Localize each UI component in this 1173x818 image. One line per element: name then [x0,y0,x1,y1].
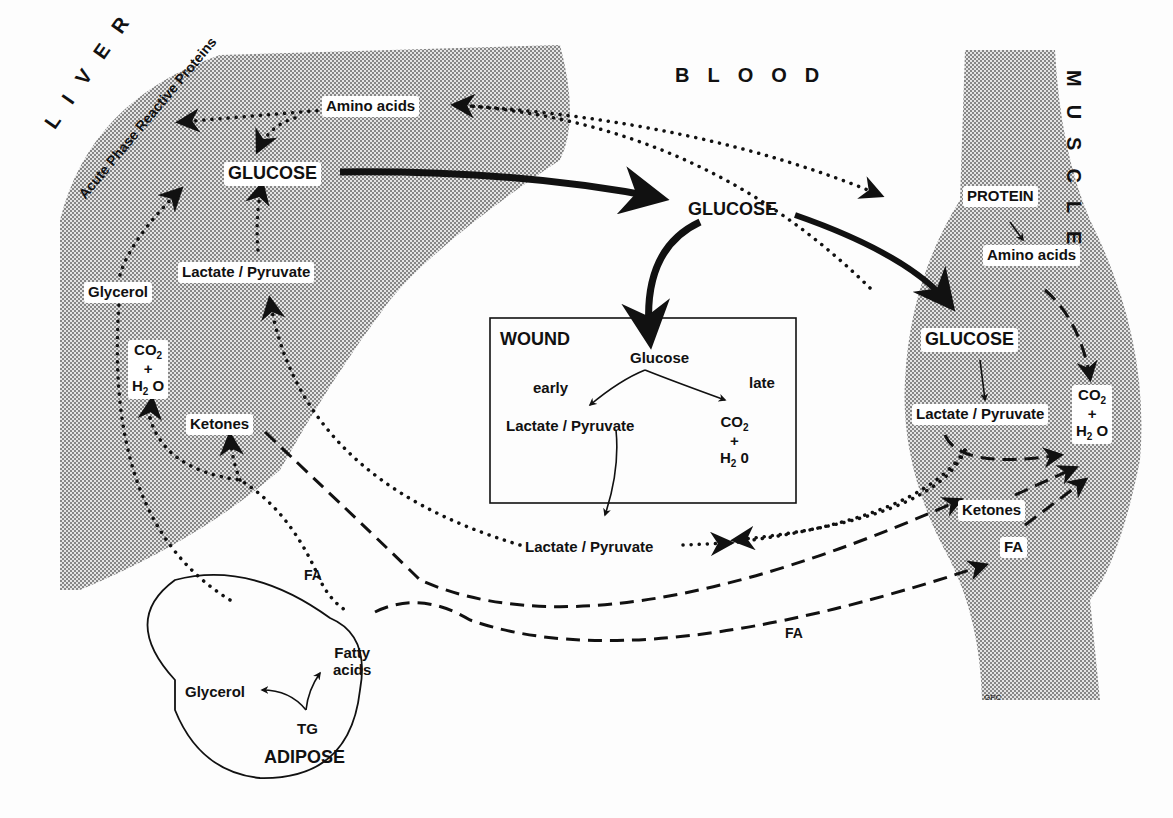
liver-glycerol-label: Glycerol [84,282,152,303]
liver-lactate-pyruvate-label: Lactate / Pyruvate [178,262,314,283]
wound-glucose-label: Glucose [630,350,689,367]
muscle-amino-acids-label: Amino acids [983,245,1080,266]
blood-title: BLOOD [675,64,837,87]
blood-glucose-label: GLUCOSE [688,200,777,220]
wound-early-label: early [533,380,568,397]
artist-signature: GPC [984,694,1001,703]
muscle-protein-label: PROTEIN [963,186,1038,207]
blood-lactate-pyruvate-label: Lactate / Pyruvate [525,539,653,556]
adipose-glycerol-label: Glycerol [185,684,245,701]
wound-co2-h2o-label: CO2 + H2 0 [720,414,749,469]
liver-amino-acids-label: Amino acids [322,96,419,117]
muscle-title: MUSCLE [1062,70,1085,262]
adipose-title: ADIPOSE [264,748,345,768]
blood-fa-bottom-label: FA [785,626,803,641]
liver-co2-h2o-label: CO2 + H2 O [128,340,168,399]
muscle-co2-h2o-label: CO2 + H2 O [1072,385,1112,444]
metabolism-diagram: LIVER BLOOD MUSCLE Acute Phase Reactive … [0,0,1173,818]
adipose-fatty-acids-label: Fatty acids [333,645,371,678]
muscle-ketones-label: Ketones [958,500,1025,521]
muscle-glucose-label: GLUCOSE [921,328,1018,352]
muscle-region [905,50,1142,700]
muscle-lactate-pyruvate-label: Lactate / Pyruvate [912,404,1048,425]
wound-late-label: late [749,375,775,392]
wound-title: WOUND [500,330,570,350]
muscle-fa-label: FA [1000,537,1027,558]
liver-ketones-label: Ketones [186,414,253,435]
adipose-tg-label: TG [297,721,318,738]
blood-fa-left-label: FA [304,568,322,583]
wound-lactate-pyruvate-label: Lactate / Pyruvate [506,418,634,435]
liver-glucose-label: GLUCOSE [224,162,321,186]
